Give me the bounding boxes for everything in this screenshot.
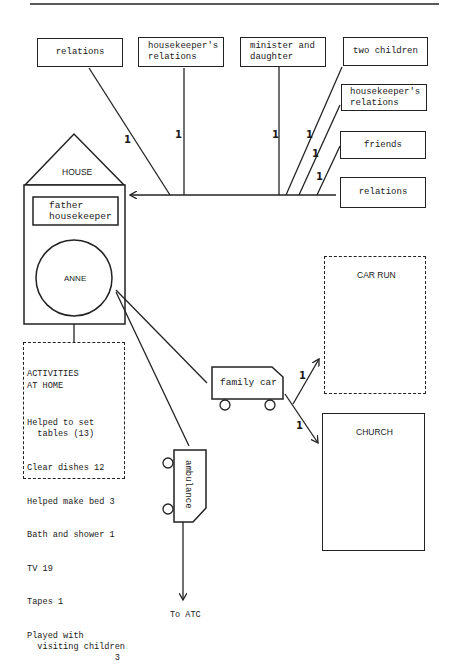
activity-item: Helped to set tables (13) — [27, 418, 121, 440]
source-minister-and-daughter: minister and daughter — [240, 37, 326, 67]
box-label: two children — [353, 46, 418, 57]
church-box: CHURCH — [322, 413, 425, 551]
house-label: HOUSE — [62, 167, 92, 178]
box-label: housekeeper's relations — [350, 87, 420, 109]
source-friends: friends — [340, 131, 426, 159]
car-run-box: CAR RUN — [324, 256, 426, 394]
family-car-label: family car — [220, 377, 277, 388]
ambulance-wheel-bottom — [163, 504, 173, 514]
activity-item: TV 19 — [27, 564, 121, 575]
source-relations-1: relations — [37, 38, 123, 67]
count-two-children: 1 — [306, 129, 313, 140]
box-label: housekeeper's relations — [148, 41, 218, 63]
count-relations-1: 1 — [124, 134, 131, 145]
count-housekeepers-relations-2: 1 — [312, 148, 319, 159]
house-residents: father housekeeper — [49, 200, 112, 222]
source-two-children: two children — [343, 37, 428, 66]
car-wheel-front — [220, 400, 230, 410]
activities-box: ACTIVITIES AT HOME Helped to set tables … — [23, 342, 125, 479]
activity-item: Helped make bed 3 — [27, 497, 121, 508]
box-label: relations — [359, 187, 408, 198]
source-housekeepers-relations-2: housekeeper's relations — [341, 84, 427, 111]
church-label: CHURCH — [356, 427, 393, 438]
count-friends: 1 — [316, 171, 323, 182]
anne-label: ANNE — [64, 273, 86, 284]
activity-item: Played with visiting children 3 — [27, 631, 121, 664]
count-housekeepers-relations-1: 1 — [175, 129, 182, 140]
activity-item: Tapes 1 — [27, 597, 121, 608]
activity-item: Clear dishes 12 — [27, 463, 121, 474]
count-minister: 1 — [272, 129, 279, 140]
source-relations-2: relations — [340, 177, 426, 208]
car-wheel-rear — [265, 400, 275, 410]
ambulance-wheel-top — [163, 458, 173, 468]
to-atc-label: To ATC — [170, 610, 201, 621]
count-church: 1 — [296, 420, 303, 431]
count-car-run: 1 — [299, 370, 306, 381]
car-run-label: CAR RUN — [357, 270, 396, 281]
box-label: minister and daughter — [250, 41, 315, 63]
box-label: friends — [364, 140, 402, 151]
activity-item: Bath and shower 1 — [27, 530, 121, 541]
ambulance-label: ambulance — [183, 460, 193, 509]
source-housekeepers-relations-1: housekeeper's relations — [138, 37, 224, 67]
activities-title: ACTIVITIES AT HOME — [27, 369, 121, 391]
box-label: relations — [56, 47, 105, 58]
